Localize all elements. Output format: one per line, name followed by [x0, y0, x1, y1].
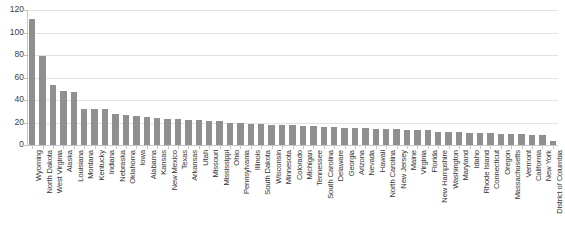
x-axis-label: Minnesota	[285, 150, 293, 184]
x-tick-mark	[459, 146, 460, 149]
bar	[466, 133, 472, 145]
x-tick-mark	[272, 146, 273, 149]
bar	[435, 132, 441, 146]
x-tick-mark	[501, 146, 502, 149]
x-tick-mark	[116, 146, 117, 149]
x-tick-mark	[95, 146, 96, 149]
x-tick-mark	[240, 146, 241, 149]
x-tick-mark	[303, 146, 304, 149]
x-axis-label: California	[535, 150, 543, 181]
x-tick-mark	[63, 146, 64, 149]
x-axis-label: Ohio	[233, 150, 241, 166]
x-axis-label: Texas	[181, 150, 189, 169]
x-tick-mark	[251, 146, 252, 149]
bar	[341, 128, 347, 145]
x-axis-label: District of Columbia	[556, 150, 564, 214]
bar	[352, 128, 358, 145]
x-tick-mark	[168, 146, 169, 149]
bar	[529, 135, 535, 145]
bar	[50, 85, 56, 145]
bar	[60, 91, 66, 145]
x-axis-label: Nevada	[368, 150, 376, 176]
y-tick-label: 20	[0, 118, 24, 127]
x-axis-label: Arkansas	[191, 150, 199, 181]
bar	[258, 124, 264, 145]
x-axis-label: Florida	[431, 150, 439, 173]
y-tick-label: 80	[0, 50, 24, 59]
x-tick-mark	[376, 146, 377, 149]
bar	[268, 125, 274, 145]
x-axis-label: Wisconsin	[275, 150, 283, 184]
x-axis-label: Pennsylvania	[243, 150, 251, 194]
x-tick-mark	[386, 146, 387, 149]
bar	[331, 127, 337, 145]
bar	[518, 134, 524, 145]
x-axis-label: North Carolina	[389, 150, 397, 198]
x-axis-label: Washington	[452, 150, 460, 189]
x-tick-mark	[334, 146, 335, 149]
bar	[237, 123, 243, 146]
x-tick-mark	[345, 146, 346, 149]
x-axis-label: Tennessee	[316, 150, 324, 186]
x-axis-label: Alaska	[66, 150, 74, 172]
bar	[102, 109, 108, 145]
x-tick-mark	[397, 146, 398, 149]
bar	[362, 128, 368, 145]
y-tick-label: 40	[0, 95, 24, 104]
bar	[373, 129, 379, 145]
bar	[456, 132, 462, 146]
x-tick-mark	[522, 146, 523, 149]
bar	[91, 109, 97, 145]
x-tick-mark	[188, 146, 189, 149]
x-axis-label: Colorado	[296, 150, 304, 180]
x-tick-mark	[470, 146, 471, 149]
x-axis-label: Montana	[87, 150, 95, 179]
x-tick-mark	[490, 146, 491, 149]
bar	[71, 92, 77, 145]
x-tick-mark	[105, 146, 106, 149]
x-axis-label: New Jersey	[400, 150, 408, 189]
x-axis-label: Virginia	[420, 150, 428, 174]
x-tick-mark	[261, 146, 262, 149]
bar	[539, 135, 545, 145]
y-axis-tick-labels: 020406080100120	[0, 0, 24, 241]
x-tick-mark	[220, 146, 221, 149]
x-axis-label: Indiana	[108, 150, 116, 174]
x-tick-mark	[449, 146, 450, 149]
bar	[123, 115, 129, 145]
bar	[487, 133, 493, 145]
x-axis-label: Missouri	[212, 150, 220, 177]
x-axis-label: Kentucky	[98, 150, 106, 180]
bar	[508, 134, 514, 145]
x-axis-label: Louisiana	[77, 150, 85, 182]
x-axis-label: Massachusetts	[514, 150, 522, 199]
bar	[185, 120, 191, 145]
bar	[414, 130, 420, 145]
x-axis-label: Vermont	[525, 150, 533, 178]
x-tick-mark	[417, 146, 418, 149]
bar	[248, 124, 254, 145]
x-axis-label: Oklahoma	[129, 150, 137, 184]
x-tick-mark	[136, 146, 137, 149]
bar	[227, 123, 233, 146]
x-tick-mark	[84, 146, 85, 149]
x-axis-label: Illinois	[254, 150, 262, 170]
x-tick-mark	[407, 146, 408, 149]
x-axis-label: Mississippi	[223, 150, 231, 186]
x-tick-mark	[293, 146, 294, 149]
x-axis-label: Hawaii	[379, 150, 387, 172]
x-axis-label: Oregon	[504, 150, 512, 175]
x-axis-label: Kansas	[160, 150, 168, 175]
bar	[81, 109, 87, 145]
chart-title-remnant: .	[343, 0, 345, 4]
x-axis-label: Iowa	[139, 150, 147, 166]
x-axis-label: North Dakota	[46, 150, 54, 194]
bar	[133, 116, 139, 145]
bar	[206, 121, 212, 145]
x-axis-label: Michigan	[306, 150, 314, 180]
x-tick-mark	[53, 146, 54, 149]
bar	[477, 133, 483, 145]
x-tick-mark	[553, 146, 554, 149]
bar	[29, 19, 35, 145]
bar	[404, 130, 410, 145]
